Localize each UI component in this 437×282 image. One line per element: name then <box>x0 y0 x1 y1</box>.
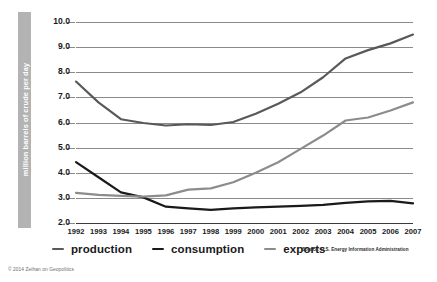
series-layer <box>76 22 413 223</box>
x-tick-label: 1993 <box>90 227 107 236</box>
series-line-production <box>76 35 413 126</box>
y-tick-label: 4.0 <box>30 167 70 177</box>
source-note: Source: U.S. Energy Information Administ… <box>302 247 409 252</box>
y-tick-label: 5.0 <box>30 142 70 152</box>
copyright-notice: © 2014 Zeihan on Geopolitics <box>8 267 74 272</box>
y-tick-label: 9.0 <box>30 41 70 51</box>
x-tick-label: 2004 <box>337 227 354 236</box>
series-line-consumption <box>76 162 413 210</box>
y-tick-label: 8.0 <box>30 66 70 76</box>
x-tick-label: 2002 <box>292 227 309 236</box>
x-tick-label: 2003 <box>315 227 332 236</box>
x-tick-label: 1999 <box>225 227 242 236</box>
x-tick-label: 1996 <box>157 227 174 236</box>
x-tick-label: 2001 <box>270 227 287 236</box>
y-tick-label: 10.0 <box>30 16 70 26</box>
legend-item-consumption[interactable]: consumption <box>152 243 244 255</box>
x-tick-label: 1994 <box>112 227 129 236</box>
x-tick-label: 2005 <box>360 227 377 236</box>
x-tick-label: 1998 <box>202 227 219 236</box>
y-tick-label: 6.0 <box>30 117 70 127</box>
legend-swatch-exports <box>264 248 276 251</box>
legend-item-production[interactable]: production <box>52 243 132 255</box>
x-tick-label: 1997 <box>180 227 197 236</box>
y-tick-label: 7.0 <box>30 91 70 101</box>
legend-swatch-production <box>52 248 64 251</box>
x-tick-label: 2007 <box>405 227 422 236</box>
legend-label-production: production <box>71 243 132 255</box>
x-tick-label: 2006 <box>382 227 399 236</box>
x-tick-label: 1992 <box>68 227 85 236</box>
legend-swatch-consumption <box>152 248 164 251</box>
chart-figure: million barrels of crude per day 10.09.0… <box>0 0 437 282</box>
plot-area: 10.09.08.07.06.05.04.03.02.0 19921993199… <box>76 22 413 223</box>
x-axis-line <box>76 223 413 224</box>
y-tick-label: 3.0 <box>30 192 70 202</box>
y-tick-label: 2.0 <box>30 217 70 227</box>
x-tick-label: 2000 <box>247 227 264 236</box>
x-tick-label: 1995 <box>135 227 152 236</box>
legend-label-consumption: consumption <box>171 243 244 255</box>
series-line-exports <box>76 102 413 196</box>
